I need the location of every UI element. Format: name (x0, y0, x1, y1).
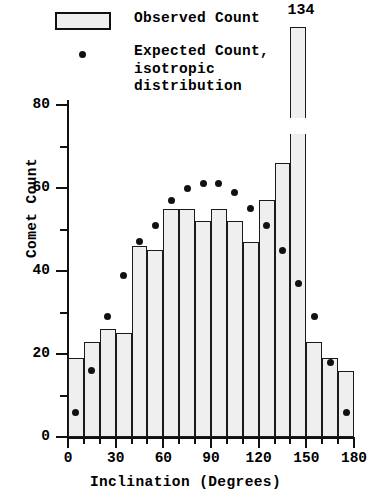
expected-count-dot (104, 313, 111, 320)
histogram-bar (147, 250, 163, 437)
legend-label-observed: Observed Count (134, 10, 260, 26)
histogram-bar (132, 246, 148, 437)
y-tick-50 (60, 229, 68, 231)
x-tick-label-120: 120 (239, 450, 279, 466)
peak-value-annotation: 134 (278, 2, 324, 19)
x-tick-label-30: 30 (96, 450, 136, 466)
x-tick-10 (83, 439, 85, 444)
x-tick-50 (146, 439, 148, 444)
histogram-bar (100, 329, 116, 437)
x-axis-title: Inclination (Degrees) (0, 474, 371, 490)
x-tick-100 (226, 439, 228, 444)
expected-count-dot (215, 180, 222, 187)
y-tick-40 (56, 270, 68, 272)
expected-count-dot (343, 409, 350, 416)
histogram-bar (259, 200, 275, 437)
x-tick-90 (210, 439, 212, 448)
x-tick-160 (321, 439, 323, 444)
x-tick-140 (289, 439, 291, 444)
histogram-bar (179, 209, 195, 437)
x-tick-120 (258, 439, 260, 448)
histogram-bar (275, 163, 291, 437)
histogram-bar (116, 333, 132, 437)
histogram-bar (195, 221, 211, 437)
expected-count-dot (120, 272, 127, 279)
y-tick-80 (56, 104, 68, 106)
expected-count-dot (247, 205, 254, 212)
expected-count-dot (136, 238, 143, 245)
expected-count-dot (152, 222, 159, 229)
expected-count-dot (231, 189, 238, 196)
chart-legend: Observed Count Expected Count, isotropic… (0, 0, 290, 100)
y-tick-60 (56, 187, 68, 189)
expected-count-dot (327, 359, 334, 366)
x-tick-180 (353, 439, 355, 448)
histogram-bar (322, 358, 338, 437)
x-tick-0 (67, 439, 69, 448)
comet-inclination-histogram-figure: Observed Count Expected Count, isotropic… (0, 0, 371, 498)
y-tick-label-80: 80 (18, 96, 50, 112)
x-tick-label-150: 150 (286, 450, 326, 466)
histogram-bar (211, 209, 227, 437)
expected-dot-swatch-icon (79, 51, 86, 58)
x-tick-label-60: 60 (143, 450, 183, 466)
y-tick-30 (60, 312, 68, 314)
expected-count-dot (311, 313, 318, 320)
y-tick-0 (56, 436, 68, 438)
x-tick-150 (305, 439, 307, 448)
x-tick-label-90: 90 (191, 450, 231, 466)
histogram-bar (306, 342, 322, 437)
expected-count-dot (184, 185, 191, 192)
x-tick-170 (337, 439, 339, 444)
histogram-bar (290, 27, 306, 437)
x-tick-20 (99, 439, 101, 444)
x-tick-60 (162, 439, 164, 448)
x-tick-30 (115, 439, 117, 448)
y-tick-70 (60, 146, 68, 148)
expected-count-dot (295, 280, 302, 287)
observed-bar-swatch-icon (55, 12, 111, 30)
x-tick-label-180: 180 (334, 450, 371, 466)
x-tick-40 (131, 439, 133, 444)
y-tick-label-20: 20 (18, 345, 50, 361)
x-tick-70 (178, 439, 180, 444)
y-tick-label-60: 60 (18, 179, 50, 195)
histogram-bar (68, 358, 84, 437)
expected-count-dot (279, 247, 286, 254)
expected-count-dot (263, 222, 270, 229)
histogram-bar (243, 242, 259, 437)
y-tick-label-0: 0 (18, 428, 50, 444)
y-tick-20 (56, 353, 68, 355)
expected-count-dot (200, 180, 207, 187)
histogram-bar (84, 342, 100, 437)
x-tick-80 (194, 439, 196, 444)
y-tick-10 (60, 395, 68, 397)
x-tick-130 (274, 439, 276, 444)
histogram-bar (163, 209, 179, 437)
legend-label-expected: Expected Count, isotropic distribution (134, 43, 269, 96)
x-tick-110 (242, 439, 244, 444)
y-tick-label-40: 40 (18, 262, 50, 278)
expected-count-dot (168, 197, 175, 204)
axis-break-gap (289, 118, 313, 134)
x-tick-label-0: 0 (48, 450, 88, 466)
histogram-bar (338, 371, 354, 437)
histogram-bar (227, 221, 243, 437)
